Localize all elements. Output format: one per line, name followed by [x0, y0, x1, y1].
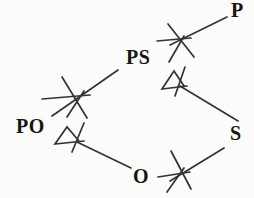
triangle-icon-s-slash: [175, 67, 185, 96]
triangle-icon-o-slash: [72, 123, 84, 152]
node-label-po: PO: [16, 117, 45, 135]
diagram-canvas: P PS PO S O: [0, 0, 254, 198]
node-label-s: S: [230, 124, 242, 142]
edge-ps-p: [170, 17, 227, 45]
cross-icon-ps-horizontal: [42, 95, 90, 99]
edge-po-o: [77, 142, 131, 168]
cross-icon-p-horizontal: [157, 38, 191, 41]
node-label-o: O: [133, 167, 149, 185]
cross-icon-s-slash: [167, 168, 184, 192]
lattice-strokes-layer: [0, 0, 254, 198]
node-label-p: P: [231, 1, 244, 19]
node-label-ps: PS: [126, 48, 150, 66]
edge-ps-s: [180, 86, 238, 121]
